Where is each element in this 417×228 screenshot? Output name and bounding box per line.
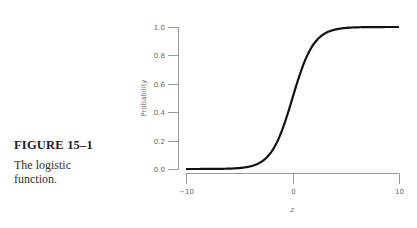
logistic-chart: 0.00.20.40.60.81.0 −10010 Probability z	[0, 0, 417, 228]
y-ticks: 0.00.20.40.60.81.0	[154, 24, 179, 174]
x-tick-label: 0	[291, 188, 295, 196]
y-tick-label: 0.0	[154, 166, 165, 174]
y-tick-label: 0.2	[154, 138, 165, 146]
logistic-curve	[186, 27, 399, 169]
y-tick-label: 0.8	[154, 52, 165, 60]
y-tick-label: 0.4	[154, 109, 166, 117]
y-tick-label: 1.0	[154, 24, 165, 32]
x-tick-label: 10	[395, 188, 404, 196]
y-axis-label: Probability	[140, 79, 148, 116]
x-tick-label: −10	[179, 188, 194, 196]
x-axis-label: z	[289, 206, 294, 214]
x-ticks: −10010	[179, 174, 404, 197]
y-tick-label: 0.6	[154, 81, 166, 89]
